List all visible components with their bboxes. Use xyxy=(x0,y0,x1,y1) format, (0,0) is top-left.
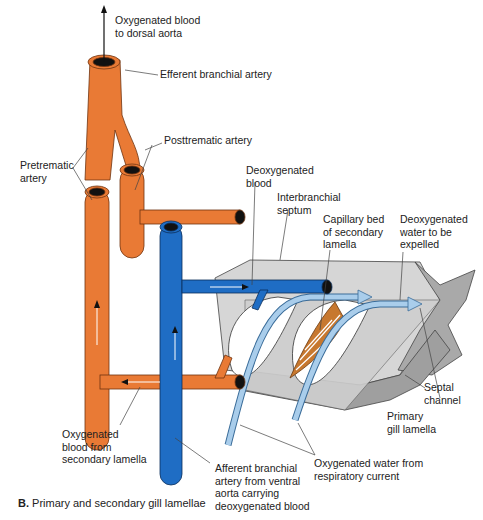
caption-text: Primary and secondary gill lamellae xyxy=(32,497,206,509)
figure-caption: B. Primary and secondary gill lamellae xyxy=(18,497,206,509)
label-deoxygenated-blood: Deoxygenated blood xyxy=(246,164,314,189)
label-posttrematic-artery: Posttrematic artery xyxy=(164,134,252,147)
label-afferent-branchial-artery: Afferent branchial artery from ventral a… xyxy=(215,462,310,512)
label-efferent-branchial-artery: Efferent branchial artery xyxy=(160,68,272,81)
label-oxygenated-from-secondary: Oxygenated blood from secondary lamella xyxy=(62,428,147,466)
label-deoxygenated-water: Deoxygenated water to be expelled xyxy=(400,213,468,251)
label-capillary-bed: Capillary bed of secondary lamella xyxy=(323,213,384,251)
label-septal-channel: Septal channel xyxy=(424,381,461,406)
caption-letter: B. xyxy=(18,497,29,509)
gill-lamellae-diagram: Oxygenated blood to dorsal aorta Efferen… xyxy=(0,0,483,520)
label-oxygenated-water: Oxygenated water from respiratory curren… xyxy=(314,457,423,482)
label-pretrematic-artery: Pretrematic artery xyxy=(20,159,74,184)
label-oxygenated-to-aorta: Oxygenated blood to dorsal aorta xyxy=(115,14,200,39)
label-primary-gill-lamella: Primary gill lamella xyxy=(387,410,436,435)
